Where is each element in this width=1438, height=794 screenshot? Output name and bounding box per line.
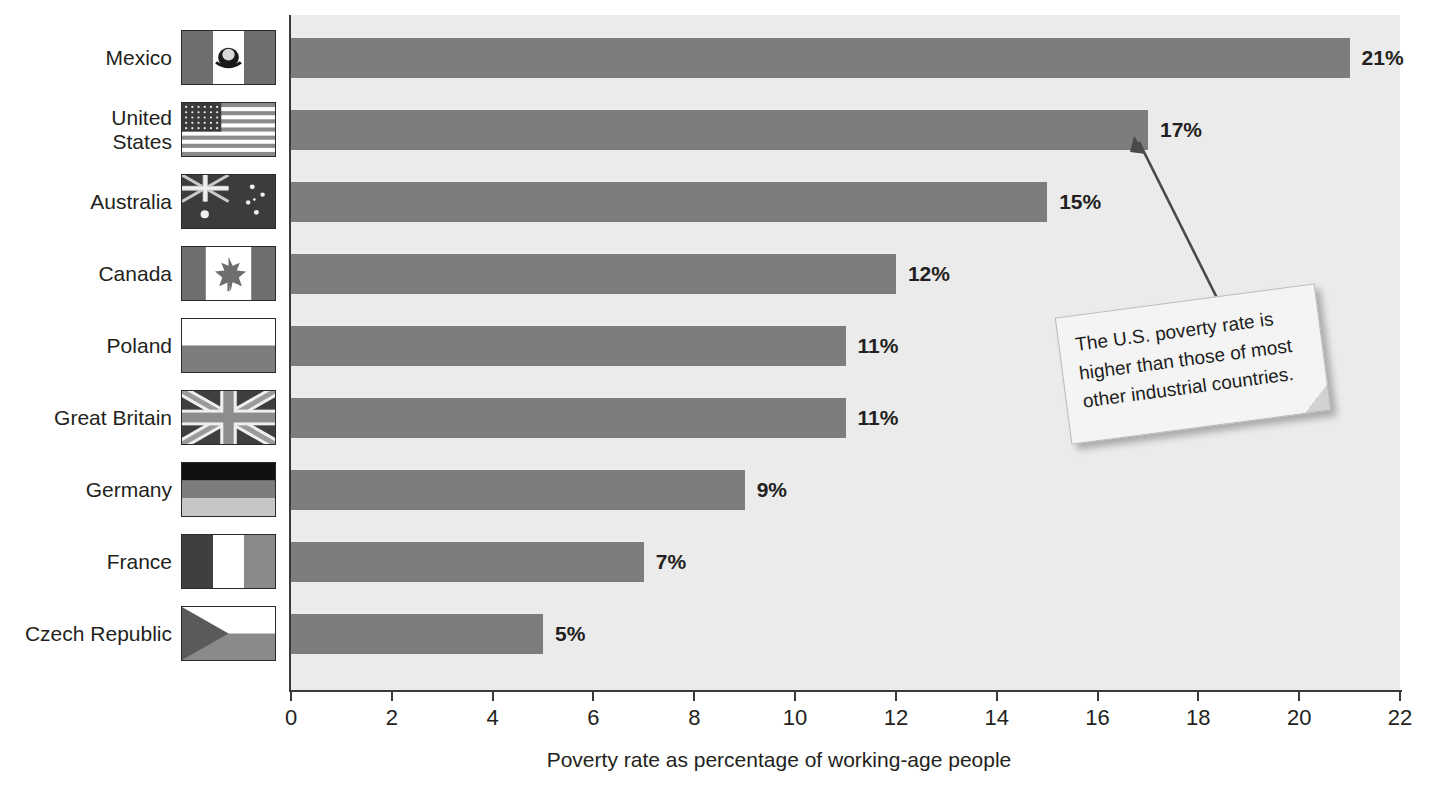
x-axis-tick-label: 0 [261, 705, 321, 731]
x-axis-tick [1197, 691, 1199, 701]
x-axis-tick [1298, 691, 1300, 701]
table-row: France7% [0, 526, 1438, 598]
bar-value-label: 9% [757, 470, 787, 510]
x-axis-tick [794, 691, 796, 701]
x-axis-tick [693, 691, 695, 701]
category-label: Mexico [0, 22, 172, 94]
bar-value-label: 7% [656, 542, 686, 582]
x-axis-tick-label: 2 [362, 705, 422, 731]
x-axis-tick-label: 6 [563, 705, 623, 731]
x-axis-tick [391, 691, 393, 701]
x-axis-tick [290, 691, 292, 701]
x-axis-tick-label: 22 [1370, 705, 1430, 731]
bar-value-label: 11% [858, 326, 899, 366]
x-axis-tick [1399, 691, 1401, 701]
table-row: Mexico21% [0, 22, 1438, 94]
flag-mexico-icon [181, 30, 276, 85]
bar [291, 614, 543, 654]
poverty-rate-bar-chart: Mexico21%United States17%Australia15%Can… [0, 0, 1438, 794]
flag-france-icon [181, 534, 276, 589]
flag-australia-icon [181, 174, 276, 229]
flag-united-states-icon [181, 102, 276, 157]
x-axis-tick [592, 691, 594, 701]
table-row: United States17% [0, 94, 1438, 166]
x-axis-tick [1097, 691, 1099, 701]
bar-value-label: 17% [1160, 110, 1202, 150]
flag-germany-icon [181, 462, 276, 517]
table-row: Germany9% [0, 454, 1438, 526]
bar-value-label: 12% [908, 254, 950, 294]
category-label: Poland [0, 310, 172, 382]
x-axis-tick-label: 4 [463, 705, 523, 731]
category-label: France [0, 526, 172, 598]
x-axis-tick-label: 18 [1168, 705, 1228, 731]
bar [291, 110, 1148, 150]
category-label: Canada [0, 238, 172, 310]
category-label: Australia [0, 166, 172, 238]
flag-canada-icon [181, 246, 276, 301]
category-label: Germany [0, 454, 172, 526]
x-axis-tick-label: 16 [1068, 705, 1128, 731]
category-label: Czech Republic [0, 598, 172, 670]
x-axis-tick-label: 12 [866, 705, 926, 731]
x-axis-tick [895, 691, 897, 701]
x-axis-tick-label: 8 [664, 705, 724, 731]
x-axis-tick [996, 691, 998, 701]
x-axis-tick-label: 20 [1269, 705, 1329, 731]
bar-value-label: 11% [858, 398, 899, 438]
flag-czech-republic-icon [181, 606, 276, 661]
bar [291, 542, 644, 582]
x-axis-tick [492, 691, 494, 701]
bar [291, 398, 846, 438]
callout-fold-corner [1302, 385, 1331, 414]
bar [291, 470, 745, 510]
bar [291, 254, 896, 294]
x-axis-title: Poverty rate as percentage of working-ag… [0, 748, 1438, 772]
bar [291, 326, 846, 366]
category-label: Great Britain [0, 382, 172, 454]
x-axis-line [289, 690, 1402, 692]
bar [291, 182, 1047, 222]
table-row: Czech Republic5% [0, 598, 1438, 670]
table-row: Australia15% [0, 166, 1438, 238]
flag-poland-icon [181, 318, 276, 373]
category-label: United States [0, 94, 172, 166]
bar-value-label: 21% [1362, 38, 1404, 78]
bar [291, 38, 1350, 78]
x-axis-tick-label: 10 [765, 705, 825, 731]
bar-value-label: 15% [1059, 182, 1101, 222]
flag-great-britain-icon [181, 390, 276, 445]
bar-value-label: 5% [555, 614, 585, 654]
x-axis-tick-label: 14 [967, 705, 1027, 731]
